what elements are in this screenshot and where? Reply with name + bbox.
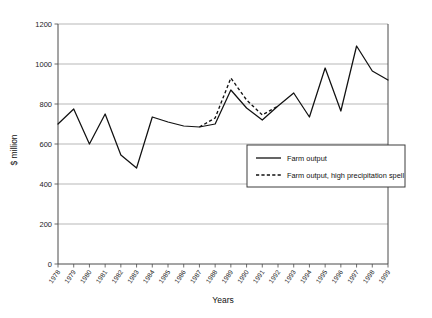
x-tick-label: 1986 [173,268,187,284]
legend-background [247,145,405,187]
x-axis-title: Years [212,295,233,305]
x-tick-label: 1980 [79,268,93,284]
series-line-farm-output-high-precipitation [199,78,278,127]
gridlines-group [58,24,388,224]
legend-label-farm-output: Farm output [287,154,327,163]
y-tick-label: 400 [39,180,52,189]
y-tick-label: 200 [39,220,52,229]
x-tick-label: 1993 [283,268,297,284]
x-tick-label: 1988 [204,268,218,284]
x-tick-label: 1997 [346,268,360,284]
y-axis-title: $ million [9,134,19,165]
x-tick-label: 1979 [63,268,77,284]
x-tick-label: 1987 [189,268,203,284]
y-tick-label: 1000 [35,60,52,69]
x-tick-label: 1990 [236,268,250,284]
y-tick-group [55,24,59,264]
x-tick-label: 1999 [377,268,391,284]
legend-label-farm-output-high-precipitation: Farm output, high precipitation spell [287,171,404,180]
x-tick-label: 1998 [361,268,375,284]
y-tick-label: 0 [48,260,52,269]
x-tick-label: 1983 [126,268,140,284]
farm-output-chart: 020040060080010001200 197819791980198119… [0,0,432,318]
x-tick-label: 1985 [157,268,171,284]
y-tick-label: 600 [39,140,52,149]
y-tick-label: 1200 [35,20,52,29]
x-tick-label: 1978 [47,268,61,284]
x-tick-label: 1981 [94,268,108,284]
x-tick-label: 1991 [251,268,265,284]
chart-legend: Farm output Farm output, high precipitat… [247,145,405,187]
x-tick-label: 1982 [110,268,124,284]
y-tick-label-group: 020040060080010001200 [35,20,52,269]
y-tick-label: 800 [39,100,52,109]
x-tick-label: 1996 [330,268,344,284]
x-tick-label: 1994 [299,268,313,284]
x-tick-label: 1989 [220,268,234,284]
chart-canvas: 020040060080010001200 197819791980198119… [0,0,432,318]
x-tick-label: 1995 [314,268,328,284]
x-tick-label: 1992 [267,268,281,284]
x-tick-label: 1984 [141,268,155,284]
x-tick-group [58,264,388,268]
x-tick-label-group: 1978197919801981198219831984198519861987… [47,268,391,284]
